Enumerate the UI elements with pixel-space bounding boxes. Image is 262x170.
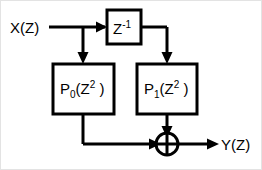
block-p1-label: P1(Z2 ): [144, 79, 188, 100]
arrowhead-output: [207, 139, 219, 150]
delay-base: Z: [113, 20, 122, 37]
arrowhead-into-p0: [78, 52, 89, 64]
block-p0-label: P0(Z2 ): [60, 79, 104, 100]
p0-base: P: [60, 80, 70, 97]
p1-base: P: [144, 80, 154, 97]
p0-paren-open: (Z: [76, 80, 90, 97]
delay-exponent: -1: [122, 19, 131, 30]
input-label: X(Z): [10, 19, 39, 36]
output-label: Y(Z): [221, 136, 250, 153]
p1-paren-close: ): [179, 80, 188, 97]
block-diagram: X(Z) Y(Z) Z-1 P0(Z2 ) P1(Z2 ): [1, 1, 262, 170]
arrowhead-into-p1: [162, 52, 173, 64]
diagram-canvas: X(Z) Y(Z) Z-1 P0(Z2 ) P1(Z2 ): [0, 0, 262, 170]
arrowhead-into-delay: [96, 22, 107, 33]
p0-paren-close: ): [95, 80, 104, 97]
p1-paren-open: (Z: [160, 80, 174, 97]
